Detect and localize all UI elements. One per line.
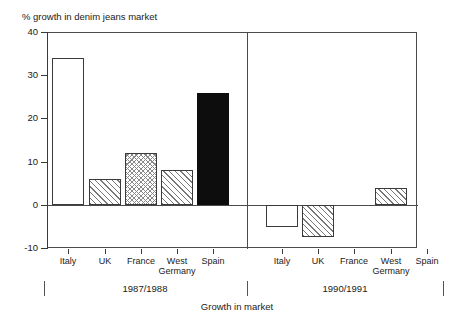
y-tick-0 <box>41 205 47 206</box>
x-axis-title: Growth in market <box>0 301 474 312</box>
y-tick-40 <box>41 32 47 33</box>
bar-1987-west-germany <box>161 170 193 205</box>
y-label-30: 30 <box>8 70 38 80</box>
y-axis-line <box>47 32 48 249</box>
y-tick-20 <box>41 118 47 119</box>
group-label-1990-1991: 1990/1991 <box>285 283 405 294</box>
y-label-20: 20 <box>8 113 38 123</box>
x-tick-1990-west-germany <box>391 249 392 254</box>
x-tick-1987-west-germany <box>177 249 178 254</box>
bar-1990-italy <box>266 205 298 227</box>
x-tick-1987-italy <box>68 249 69 254</box>
bar-1990-uk <box>302 205 334 237</box>
y-tick-minus10 <box>41 248 47 249</box>
x-label-1987-spain: Spain <box>188 256 238 267</box>
x-tick-1990-italy <box>282 249 283 254</box>
bar-chart: % growth in denim jeans market 40 30 20 … <box>0 0 474 322</box>
group-separator-left <box>44 281 45 296</box>
chart-title: % growth in denim jeans market <box>22 11 157 23</box>
group-label-1987-1988: 1987/1988 <box>85 283 205 294</box>
y-label-40: 40 <box>8 27 38 37</box>
y-axis-labels: 40 30 20 10 0 -10 <box>0 0 38 322</box>
x-tick-1990-spain <box>427 249 428 254</box>
bar-1987-italy <box>52 58 84 205</box>
bar-1990-west-germany <box>375 188 407 205</box>
x-tick-1987-spain <box>213 249 214 254</box>
x-tick-1990-france <box>354 249 355 254</box>
y-label-0: 0 <box>8 200 38 210</box>
x-tick-1990-uk <box>318 249 319 254</box>
x-label-1990-west-germany-line2: Germany <box>366 266 416 277</box>
y-tick-30 <box>41 75 47 76</box>
bar-1987-france <box>125 153 157 205</box>
y-label-minus10: -10 <box>8 243 38 253</box>
plot-area <box>47 32 417 248</box>
panel-divider-line <box>247 32 248 249</box>
x-tick-1987-france <box>141 249 142 254</box>
group-separator-right <box>443 281 444 296</box>
bar-1987-spain <box>197 93 229 205</box>
bar-1987-uk <box>89 179 121 205</box>
zero-baseline <box>47 205 418 206</box>
x-label-1987-west-germany-line2: Germany <box>152 266 202 277</box>
x-tick-1987-uk <box>105 249 106 254</box>
x-label-1990-spain: Spain <box>402 256 452 267</box>
y-tick-10 <box>41 162 47 163</box>
y-label-10: 10 <box>8 157 38 167</box>
group-separator-middle <box>247 281 248 296</box>
